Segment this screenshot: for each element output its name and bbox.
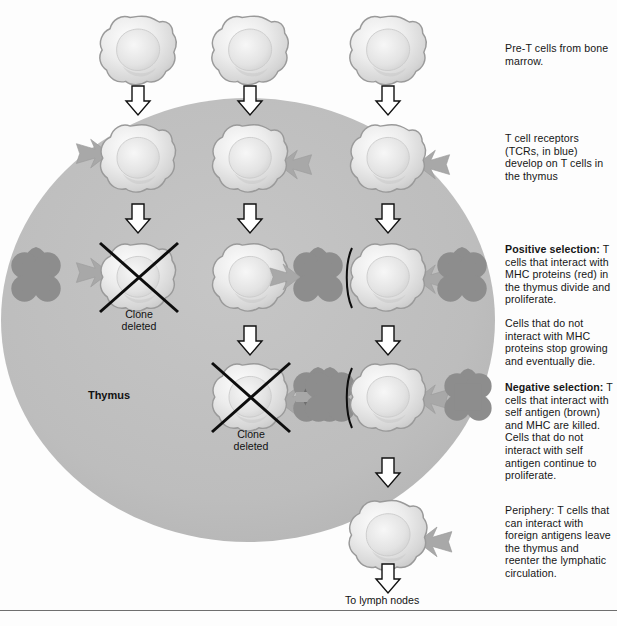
note-tcr-body: T cell receptors (TCRs, in blue) develop… [505,132,603,182]
pre-t-cell-middle [212,16,288,85]
note-positive-extra: Cells that do not interact with MHC prot… [505,317,613,367]
note-negative-heading: Negative selection: [505,381,603,393]
mhc-protein-center-right [293,247,342,302]
pre-t-cell-right [350,16,426,85]
clone-deleted-label-left: Clone deleted [98,308,180,333]
note-negative: Negative selection: T cells that interac… [505,381,613,482]
row-pre-t-cells [100,16,426,85]
note-pre-t: Pre-T cells from bone marrow. [505,42,613,67]
note-pre-t-body: Pre-T cells from bone marrow. [505,42,608,67]
arrow-left-1 [126,86,150,115]
mhc-protein-far-left [11,247,60,302]
arrow-right-1 [376,86,400,115]
row-tcr-development [76,125,449,192]
note-periphery: Periphery: T cells that can interact wit… [505,504,613,580]
to-lymph-nodes-caption: To lymph nodes [345,594,419,606]
figure-canvas: Clone deleted Clone deleted Thymus To ly… [0,0,617,626]
mhc-protein-far-right [437,247,486,302]
note-negative-body: T cells that interact with self antigen … [505,381,613,481]
mhc-protein-far-right-neg [444,368,491,420]
note-positive: Positive selection: T cells that interac… [505,243,613,367]
note-tcr: T cell receptors (TCRs, in blue) develop… [505,132,613,182]
note-periphery-body: Periphery: T cells that can interact wit… [505,504,611,579]
note-positive-heading: Positive selection: [505,243,600,255]
clone-deleted-label-middle: Clone deleted [210,428,292,453]
footer-divider [0,610,617,611]
t-cell-periphery [349,501,452,571]
row-periphery [349,501,452,571]
pre-t-cell-left [100,16,176,85]
thymus-label: Thymus [68,389,150,401]
